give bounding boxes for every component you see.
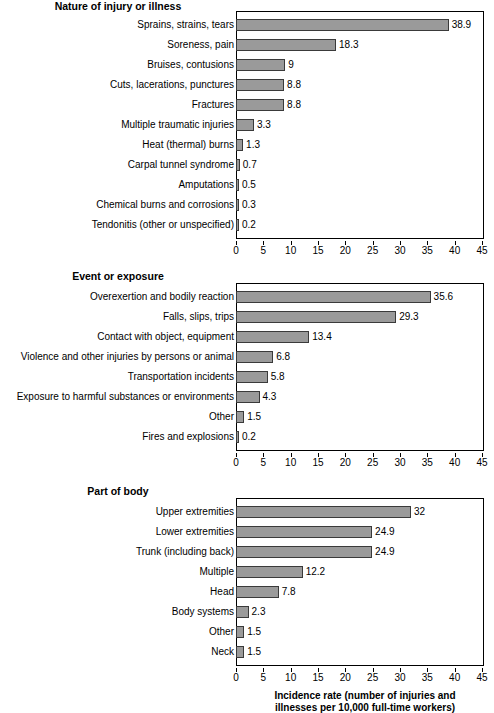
bar-value-label: 1.5	[247, 622, 261, 642]
bar-value-label: 4.3	[263, 387, 277, 407]
bar-value-label: 29.3	[399, 307, 418, 327]
category-label: Falls, slips, trips	[163, 307, 234, 327]
bar-value-label: 32	[414, 502, 425, 522]
bar	[236, 371, 268, 383]
bar	[236, 59, 285, 71]
bar	[236, 546, 372, 558]
category-label: Lower extremities	[156, 522, 234, 542]
bar	[236, 626, 244, 638]
x-axis-tick-label: 25	[360, 672, 386, 684]
bar	[236, 391, 260, 403]
category-label: Trunk (including back)	[136, 542, 234, 562]
x-axis-tick-label: 10	[278, 457, 304, 469]
x-axis-tick-label: 15	[305, 672, 331, 684]
x-axis-tick-label: 35	[414, 457, 440, 469]
category-label: Other	[209, 407, 234, 427]
bar	[236, 646, 244, 658]
category-label: Head	[210, 582, 234, 602]
x-axis-tick-label: 40	[442, 457, 468, 469]
category-label: Tendonitis (other or unspecified)	[92, 215, 234, 235]
bar-row: Carpal tunnel syndrome0.7	[0, 155, 494, 175]
bar-value-label: 0.5	[242, 175, 256, 195]
bar-row: Overexertion and bodily reaction35.6	[0, 287, 494, 307]
bar	[236, 431, 239, 443]
x-axis-title-line1: Incidence rate (number of injuries and	[236, 690, 494, 702]
category-label: Transportation incidents	[128, 367, 234, 387]
bar-row: Other1.5	[0, 622, 494, 642]
bar-row: Head7.8	[0, 582, 494, 602]
x-axis-tick-label: 45	[469, 672, 494, 684]
bar	[236, 199, 239, 211]
category-label: Violence and other injuries by persons o…	[21, 347, 234, 367]
category-label: Body systems	[172, 602, 234, 622]
category-label: Cuts, lacerations, punctures	[110, 75, 234, 95]
bar-row: Heat (thermal) burns1.3	[0, 135, 494, 155]
bar-row: Sprains, strains, tears38.9	[0, 15, 494, 35]
x-axis-tick-label: 20	[332, 672, 358, 684]
category-label: Multiple traumatic injuries	[121, 115, 234, 135]
x-axis: 051015202530354045	[236, 668, 484, 684]
category-label: Soreness, pain	[167, 35, 234, 55]
bar	[236, 411, 244, 423]
category-label: Chemical burns and corrosions	[96, 195, 234, 215]
bar	[236, 566, 303, 578]
category-label: Overexertion and bodily reaction	[90, 287, 234, 307]
bar-value-label: 5.8	[271, 367, 285, 387]
category-label: Amputations	[178, 175, 234, 195]
bar-row: Tendonitis (other or unspecified)0.2	[0, 215, 494, 235]
category-label: Other	[209, 622, 234, 642]
x-axis-tick-label: 5	[250, 245, 276, 257]
bar-value-label: 0.2	[242, 427, 256, 447]
bar-value-label: 7.8	[282, 582, 296, 602]
x-axis-tick-label: 20	[332, 245, 358, 257]
bar	[236, 331, 309, 343]
x-axis-tick-label: 0	[223, 457, 249, 469]
category-label: Fractures	[192, 95, 234, 115]
bar-value-label: 35.6	[434, 287, 453, 307]
x-axis-tick-label: 30	[387, 672, 413, 684]
bar-row: Exposure to harmful substances or enviro…	[0, 387, 494, 407]
bar-value-label: 8.8	[287, 95, 301, 115]
bar-row: Lower extremities24.9	[0, 522, 494, 542]
bar	[236, 311, 396, 323]
x-axis-tick-label: 0	[223, 672, 249, 684]
x-axis-tick-label: 40	[442, 672, 468, 684]
category-label: Bruises, contusions	[147, 55, 234, 75]
category-label: Neck	[211, 642, 234, 662]
bar-value-label: 1.5	[247, 407, 261, 427]
panel-title: Nature of injury or illness	[0, 0, 236, 12]
category-label: Contact with object, equipment	[97, 327, 234, 347]
bar-row: Body systems2.3	[0, 602, 494, 622]
bar-value-label: 38.9	[452, 15, 471, 35]
x-axis-tick-label: 35	[414, 245, 440, 257]
bar	[236, 159, 240, 171]
bar-value-label: 3.3	[257, 115, 271, 135]
bar-row: Trunk (including back)24.9	[0, 542, 494, 562]
x-axis-tick-label: 15	[305, 457, 331, 469]
x-axis-tick-label: 10	[278, 245, 304, 257]
category-label: Sprains, strains, tears	[137, 15, 234, 35]
bar-row: Violence and other injuries by persons o…	[0, 347, 494, 367]
x-axis-tick-label: 40	[442, 245, 468, 257]
bar	[236, 179, 239, 191]
bar-row: Chemical burns and corrosions0.3	[0, 195, 494, 215]
bar	[236, 219, 239, 231]
bar-value-label: 2.3	[252, 602, 266, 622]
x-axis-tick-label: 20	[332, 457, 358, 469]
category-label: Carpal tunnel syndrome	[128, 155, 234, 175]
x-axis-tick-label: 0	[223, 245, 249, 257]
x-axis: 051015202530354045	[236, 241, 484, 257]
bar-value-label: 1.3	[246, 135, 260, 155]
x-axis-tick-label: 15	[305, 245, 331, 257]
bar-row: Amputations0.5	[0, 175, 494, 195]
x-axis-tick-label: 45	[469, 245, 494, 257]
bar	[236, 99, 284, 111]
bar	[236, 526, 372, 538]
bar	[236, 79, 284, 91]
bar-row: Other1.5	[0, 407, 494, 427]
category-label: Upper extremities	[156, 502, 234, 522]
bar-row: Contact with object, equipment13.4	[0, 327, 494, 347]
bar-row: Cuts, lacerations, punctures8.8	[0, 75, 494, 95]
panel-title: Event or exposure	[0, 270, 236, 282]
bar-value-label: 0.2	[242, 215, 256, 235]
